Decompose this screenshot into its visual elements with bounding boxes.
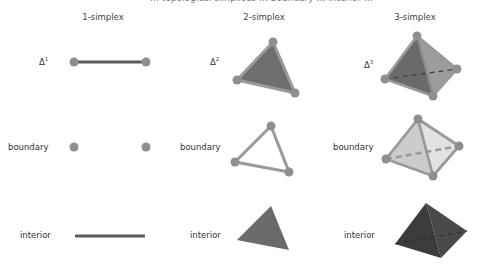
one-simplex-boundary bbox=[70, 143, 151, 152]
two-simplex-interior bbox=[237, 206, 289, 250]
two-simplex-full bbox=[233, 38, 300, 98]
three-simplex-interior bbox=[395, 203, 467, 258]
one-simplex-full bbox=[70, 58, 151, 67]
simplex-diagram bbox=[0, 0, 478, 266]
three-simplex-boundary bbox=[382, 115, 464, 181]
three-simplex-full bbox=[381, 32, 462, 101]
two-simplex-boundary bbox=[231, 122, 294, 177]
